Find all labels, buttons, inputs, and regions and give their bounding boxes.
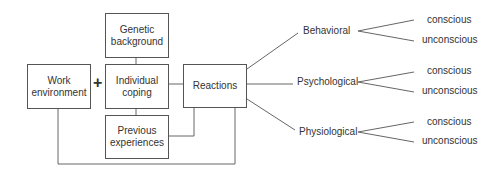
physiological-unconscious: unconscious bbox=[422, 135, 478, 147]
behavioral-unconscious: unconscious bbox=[422, 34, 478, 46]
previous-experiences-label: Previous experiences bbox=[110, 125, 164, 149]
plus-sign: + bbox=[93, 74, 102, 92]
reactions-box: Reactions bbox=[183, 64, 247, 108]
previous-experiences-box: Previous experiences bbox=[105, 115, 169, 159]
genetic-background-label: Genetic background bbox=[111, 24, 163, 48]
psychological-conscious: conscious bbox=[427, 65, 471, 77]
branch-psychological: Psychological bbox=[297, 76, 358, 88]
behavioral-conscious: conscious bbox=[427, 14, 471, 26]
work-environment-box: Work environment bbox=[27, 64, 91, 109]
psychological-unconscious: unconscious bbox=[422, 85, 478, 97]
work-environment-label: Work environment bbox=[31, 75, 86, 99]
branch-behavioral: Behavioral bbox=[303, 25, 350, 37]
physiological-conscious: conscious bbox=[427, 116, 471, 128]
individual-coping-label: Individual coping bbox=[116, 75, 158, 99]
reactions-label: Reactions bbox=[193, 80, 237, 92]
branch-physiological: Physiological bbox=[299, 126, 357, 138]
genetic-background-box: Genetic background bbox=[105, 13, 169, 58]
individual-coping-box: Individual coping bbox=[105, 64, 169, 109]
